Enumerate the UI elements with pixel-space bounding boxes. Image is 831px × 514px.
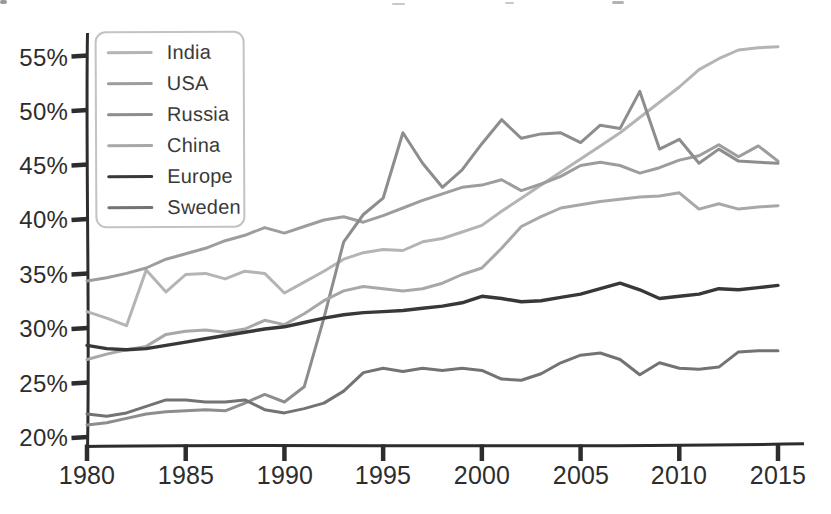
x-tick-label: 2015 [736,461,820,489]
sweden-line-swatch [107,206,153,209]
legend: India USA Russia China Europe Sweden [95,31,246,229]
x-tick-label: 2005 [539,461,623,489]
legend-item-europe: Europe [107,161,243,193]
y-tick-label: 30% [6,315,68,343]
legend-item-usa: USA [107,68,243,100]
line-chart-figure: 20% 25% 30% 35% 40% 45% 50% 55% 1980 198… [0,0,831,514]
y-tick-label: 45% [6,152,68,180]
y-tick [72,328,89,329]
europe-line-swatch [107,175,153,178]
x-tick-label: 2010 [637,461,721,489]
y-axis [87,33,88,450]
russia-line-swatch [107,113,153,116]
y-axis-ticks [72,56,89,439]
x-tick-label: 1990 [243,461,327,489]
y-tick [72,165,89,166]
y-tick [72,437,89,438]
legend-item-russia: Russia [107,99,243,131]
legend-item-sweden: Sweden [107,192,243,224]
y-tick-label: 50% [6,98,68,126]
india-line-swatch [107,51,153,54]
y-tick-label: 35% [6,261,68,289]
legend-label: China [167,134,220,157]
y-tick [72,110,89,111]
usa-line-swatch [107,82,153,85]
x-axis [86,444,804,447]
legend-label: India [167,41,211,64]
legend-item-india: India [107,37,243,69]
series-line-europe [87,283,778,350]
x-tick-label: 1985 [144,461,228,489]
y-tick-label: 55% [6,44,68,72]
y-tick-label: 20% [6,424,68,452]
legend-item-china: China [107,130,243,162]
x-tick-label: 2000 [440,461,524,489]
legend-label: USA [167,72,209,95]
y-tick [72,219,89,220]
y-tick-label: 25% [6,370,68,398]
legend-label: Russia [167,103,229,126]
series-line-sweden [87,351,778,416]
x-tick-label: 1995 [341,461,425,489]
legend-label: Europe [167,165,233,188]
y-tick [72,383,89,384]
legend-label: Sweden [167,196,241,219]
y-tick-label: 40% [6,206,68,234]
x-tick-label: 1980 [45,461,129,489]
y-tick [72,56,89,57]
y-tick [72,274,89,275]
china-line-swatch [107,144,153,147]
